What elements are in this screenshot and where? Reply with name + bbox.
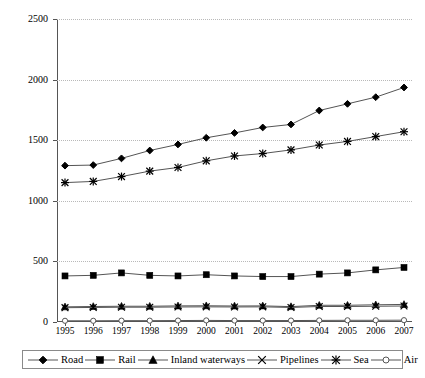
- legend-item-inland-waterways[interactable]: Inland waterways: [138, 354, 247, 366]
- data-point-asterisk: [259, 150, 267, 158]
- data-point-diamond: [39, 356, 47, 364]
- data-point-open-circle: [317, 318, 322, 323]
- data-point-diamond: [62, 162, 69, 169]
- data-point-square: [147, 272, 153, 278]
- data-point-asterisk: [400, 128, 408, 136]
- chart-page: 05001000150020002500 1995199619971998199…: [0, 0, 425, 378]
- y-tick-label: 1000: [28, 196, 48, 206]
- legend-item-road[interactable]: Road: [28, 354, 85, 366]
- data-point-asterisk: [315, 141, 323, 149]
- data-point-open-circle: [401, 318, 406, 323]
- y-tick-mark: [53, 322, 57, 323]
- data-point-square: [401, 264, 407, 270]
- data-point-asterisk: [146, 167, 154, 175]
- legend-marker-square-icon: [85, 354, 115, 366]
- data-point-square: [260, 274, 266, 280]
- data-point-open-circle: [62, 318, 67, 323]
- legend-label: Inland waterways: [171, 354, 245, 365]
- legend-item-rail[interactable]: Rail: [85, 354, 138, 366]
- data-point-diamond: [146, 147, 153, 154]
- legend-label: Pipelines: [280, 354, 319, 365]
- legend-label: Rail: [118, 354, 136, 365]
- data-point-open-circle: [260, 318, 265, 323]
- data-point-open-circle: [288, 318, 293, 323]
- legend-marker-diamond-icon: [28, 354, 58, 366]
- data-point-diamond: [316, 107, 323, 114]
- y-tick-label: 2000: [28, 75, 48, 85]
- data-point-square: [232, 273, 238, 279]
- legend-label: Air: [404, 354, 418, 365]
- data-point-open-circle: [345, 318, 350, 323]
- data-point-diamond: [118, 155, 125, 162]
- legend-marker-open-circle-icon: [371, 354, 401, 366]
- plot-area: 05001000150020002500 1995199619971998199…: [57, 19, 412, 322]
- series-air: [62, 318, 406, 324]
- data-point-asterisk: [174, 163, 182, 171]
- data-point-square: [97, 356, 104, 363]
- legend-label: Sea: [354, 354, 369, 365]
- series-inland-waterways: [61, 301, 407, 310]
- data-point-square: [288, 274, 294, 280]
- data-point-diamond: [344, 100, 351, 107]
- data-point-asterisk: [287, 146, 295, 154]
- data-point-open-circle: [175, 318, 180, 323]
- data-point-square: [119, 270, 125, 276]
- series-rail: [62, 264, 407, 279]
- data-point-asterisk: [372, 133, 380, 141]
- data-point-diamond: [288, 121, 295, 128]
- data-point-square: [316, 271, 322, 277]
- data-point-square: [90, 272, 96, 278]
- data-point-open-circle: [383, 357, 389, 363]
- chart-legend: RoadRailInland waterwaysPipelinesSeaAir: [22, 350, 403, 369]
- legend-marker-x-icon: [247, 354, 277, 366]
- data-point-diamond: [203, 134, 210, 141]
- data-point-open-circle: [147, 318, 152, 323]
- data-point-open-circle: [91, 318, 96, 323]
- data-point-open-circle: [232, 318, 237, 323]
- legend-marker-asterisk-icon: [321, 354, 351, 366]
- data-point-asterisk: [89, 177, 97, 185]
- data-point-open-circle: [204, 318, 209, 323]
- data-point-asterisk: [202, 157, 210, 165]
- data-point-diamond: [231, 130, 238, 137]
- data-point-diamond: [259, 124, 266, 131]
- series-layer: [57, 19, 412, 322]
- data-point-diamond: [90, 162, 97, 169]
- y-tick-label: 500: [33, 256, 48, 266]
- data-point-square: [62, 273, 68, 279]
- data-point-square: [345, 270, 351, 276]
- legend-item-pipelines[interactable]: Pipelines: [247, 354, 321, 366]
- data-point-diamond: [401, 84, 408, 91]
- data-point-open-circle: [373, 318, 378, 323]
- data-point-square: [175, 273, 181, 279]
- data-point-square: [373, 267, 379, 273]
- data-point-asterisk: [118, 173, 126, 181]
- legend-item-sea[interactable]: Sea: [321, 354, 371, 366]
- data-point-open-circle: [119, 318, 124, 323]
- data-point-asterisk: [231, 152, 239, 160]
- legend-label: Road: [61, 354, 83, 365]
- legend-marker-triangle-icon: [138, 354, 168, 366]
- y-tick-label: 1500: [28, 135, 48, 145]
- data-point-asterisk: [61, 179, 69, 187]
- data-point-asterisk: [331, 355, 340, 364]
- data-point-square: [203, 272, 209, 278]
- y-tick-label: 2500: [28, 14, 48, 24]
- data-point-asterisk: [344, 137, 352, 145]
- legend-item-air[interactable]: Air: [371, 354, 420, 366]
- x-tick-label: 2007: [384, 326, 424, 336]
- data-point-diamond: [372, 94, 379, 101]
- data-point-diamond: [175, 141, 182, 148]
